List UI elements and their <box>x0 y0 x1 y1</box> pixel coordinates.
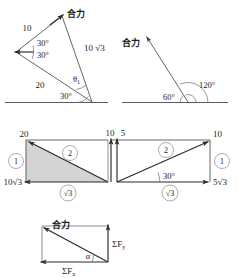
label-sum-fx: ΣFx <box>62 266 75 277</box>
label-side-20: 20 <box>36 80 46 90</box>
label-circled-1-left: 1 <box>14 157 18 166</box>
label-angle-120: 120° <box>199 80 215 90</box>
bottom-resultant-arrow <box>44 228 109 263</box>
label-mid-right-5root3: 5√3 <box>213 177 227 187</box>
arc-alpha <box>92 254 94 262</box>
label-resultant-top-right: 合力 <box>122 37 140 48</box>
segment-20 <box>16 52 92 102</box>
label-side-10: 10 <box>23 23 33 33</box>
arc-theta1 <box>77 85 87 90</box>
arc-30-lower <box>32 53 34 59</box>
panel-bottom: 合力 ΣFy ΣFx α <box>41 219 126 277</box>
vector-diagram-figure: 10 20 10 √3 30° 30° 30° θ1 合力 60° 120° 合… <box>0 0 238 278</box>
label-angle-30-base: 30° <box>60 91 72 101</box>
arc-30-base <box>76 97 89 103</box>
arc-60 <box>180 96 183 103</box>
label-circled-2-left: 2 <box>68 149 72 158</box>
label-mid-right-top-10: 10 <box>213 129 223 139</box>
panel-top-left: 10 20 10 √3 30° 30° 30° θ1 合力 <box>5 8 108 103</box>
label-circled-root3-left: √3 <box>64 189 72 198</box>
label-angle-30-mid-right: 30° <box>163 171 175 181</box>
label-mid-right-5: 5 <box>121 128 126 138</box>
label-sum-fy: ΣFy <box>112 239 125 250</box>
label-mid-right-10: 10 <box>106 128 116 138</box>
label-circled-2-right: 2 <box>164 146 168 155</box>
resultant-arrow-top-left <box>50 15 64 26</box>
panel-mid-left: 20 10√3 1 2 √3 <box>4 129 108 201</box>
label-angle-60: 60° <box>163 92 175 102</box>
label-resultant-bottom: 合力 <box>52 219 70 230</box>
label-angle-30-lower: 30° <box>37 50 49 60</box>
arc-30-mid-right <box>158 173 160 183</box>
panel-top-right: 60° 120° 合力 <box>122 37 228 103</box>
label-resultant-top-left: 合力 <box>67 8 85 19</box>
label-angle-30-upper: 30° <box>37 38 49 48</box>
label-theta1: θ1 <box>73 74 80 85</box>
label-mid-left-20: 20 <box>20 129 30 139</box>
figure-root: 10 20 10 √3 30° 30° 30° θ1 合力 60° 120° 合… <box>0 0 238 278</box>
label-circled-1-right: 1 <box>220 157 224 166</box>
arc-30-upper <box>33 46 34 52</box>
label-alpha: α <box>86 251 91 261</box>
label-side-10root3: 10 √3 <box>84 43 105 53</box>
panel-mid-right: 10 5 10 5√3 30° 2 1 √3 <box>106 128 230 201</box>
label-mid-left-10root3: 10√3 <box>4 177 23 187</box>
label-circled-root3-right: √3 <box>166 189 174 198</box>
